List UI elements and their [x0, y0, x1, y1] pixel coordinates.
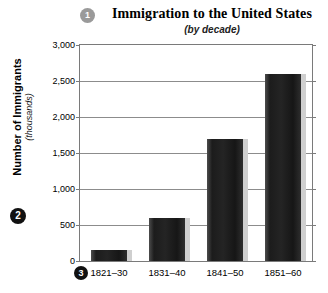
y-axis-tick-label: 1,500	[35, 148, 75, 158]
y-axis-tick	[76, 189, 80, 190]
bar-1821–30	[91, 250, 127, 261]
chart-subtitle: (by decade)	[100, 24, 324, 35]
plot-area	[79, 44, 313, 262]
chart-title: Immigration to the United States	[100, 6, 324, 22]
x-axis-tick-label: 1831–40	[138, 267, 196, 278]
chart-page: 1 Immigration to the United States (by d…	[0, 0, 328, 293]
y-axis-tick-label: 2,500	[35, 76, 75, 86]
y-axis-tick	[76, 225, 80, 226]
y-axis-title: Number of Immigrants	[11, 58, 23, 175]
x-axis-tick-label: 1851–60	[254, 267, 312, 278]
x-axis-tick-label: 1841–50	[196, 267, 254, 278]
y-axis-tick	[312, 117, 316, 118]
y-axis-tick	[76, 81, 80, 82]
y-axis-tick	[312, 81, 316, 82]
bar-1831–40	[149, 218, 185, 261]
callout-badge-2: 2	[10, 208, 26, 224]
y-axis-tick	[312, 261, 316, 262]
y-axis-title-group: Number of Immigrants (thousands)	[5, 37, 39, 197]
callout-badge-1: 1	[80, 8, 95, 23]
y-axis-tick	[312, 225, 316, 226]
y-axis-tick	[76, 261, 80, 262]
y-axis-tick	[76, 45, 80, 46]
y-axis-units: (thousands)	[24, 93, 34, 141]
y-axis-tick-label: 0	[35, 256, 75, 266]
y-axis-tick	[76, 117, 80, 118]
y-axis-tick-label: 1,000	[35, 184, 75, 194]
y-axis-tick-label: 500	[35, 220, 75, 230]
y-axis-tick	[312, 45, 316, 46]
bar-1851–60	[265, 74, 301, 261]
y-axis-tick	[76, 153, 80, 154]
y-axis-tick-label: 3,000	[35, 40, 75, 50]
y-axis-tick-label: 2,000	[35, 112, 75, 122]
bar-1841–50	[207, 139, 243, 261]
x-axis-tick-label: 1821–30	[80, 267, 138, 278]
y-axis-tick	[312, 153, 316, 154]
y-axis-tick	[312, 189, 316, 190]
